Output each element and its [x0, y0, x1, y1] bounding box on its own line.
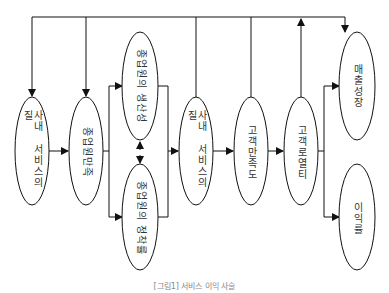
- label-internal-service-quality: 사내 서비스의 질: [22, 110, 42, 194]
- label-customer-satisfaction: 고객만족도: [241, 110, 261, 194]
- label-employee-productivity: 종업원의 생산성: [131, 40, 151, 132]
- label-customer-loyalty: 고객로열티: [291, 110, 311, 194]
- label-internal-service-quality-2: 사내 서비스의 질: [186, 110, 206, 194]
- label-employee-satisfaction: 종업원만족: [77, 110, 97, 194]
- figure-caption: [그림1] 서비스 이익 사슬: [0, 280, 389, 291]
- label-revenue-growth: 매출성장: [347, 44, 367, 128]
- label-profitability: 이익률: [347, 176, 367, 260]
- label-employee-retention: 종업원의 정착률: [131, 172, 151, 264]
